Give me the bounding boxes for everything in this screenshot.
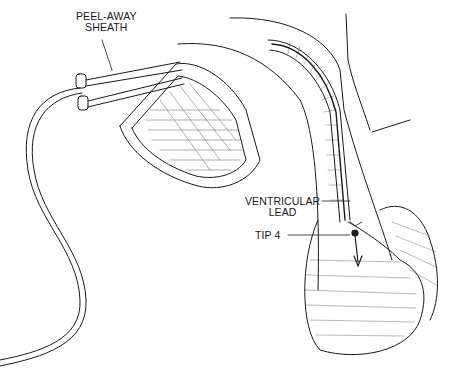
pacemaker-implant-drawing <box>0 0 456 368</box>
connector-caps <box>76 62 184 110</box>
label-tip: TIP 4 <box>255 230 280 241</box>
lead-cable <box>0 88 86 366</box>
chest-outline <box>178 14 410 290</box>
incision-pocket <box>120 63 260 187</box>
label-peel-away-sheath: PEEL-AWAY SHEATH <box>76 11 137 33</box>
label-line: SHEATH <box>76 22 137 33</box>
label-ventricular-lead: VENTRICULAR LEAD <box>245 196 320 218</box>
illustration-canvas: PEEL-AWAY SHEATH VENTRICULAR LEAD TIP 4 <box>0 0 456 368</box>
heart <box>305 206 438 354</box>
label-line: LEAD <box>245 207 320 218</box>
